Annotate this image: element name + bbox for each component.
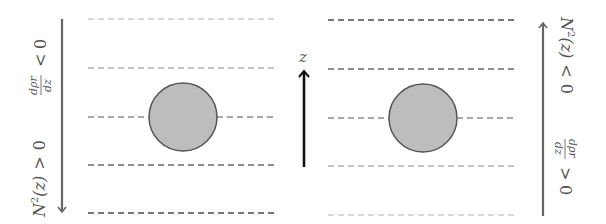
svg-text:dz: dz (41, 79, 54, 92)
right-labels: N2(z)<0 dρr dz > 0 (552, 16, 579, 195)
svg-text:dz: dz (552, 142, 565, 155)
z-axis-label: z (298, 48, 307, 66)
svg-text:dρr: dρr (566, 139, 579, 159)
svg-text:>: > (556, 167, 575, 180)
right-gradient-label: dρr dz > 0 (552, 139, 579, 195)
right-fluid-parcel (389, 84, 457, 152)
svg-text:0: 0 (31, 39, 50, 49)
left-labels: N2(z)>0 dρr dz < 0 (27, 39, 54, 218)
left-stability-label: N2(z)>0 (29, 140, 49, 218)
left-panel: N2(z)>0 dρr dz < 0 (27, 19, 275, 218)
svg-text:0: 0 (556, 185, 575, 195)
stratification-diagram: N2(z)>0 dρr dz < 0 z (0, 0, 606, 224)
left-fluid-parcel (149, 83, 217, 151)
right-stability-label: N2(z)<0 (557, 16, 577, 94)
svg-text:<: < (31, 54, 50, 67)
svg-text:dρr: dρr (27, 75, 40, 95)
left-gradient-label: dρr dz < 0 (27, 39, 54, 95)
z-axis: z (298, 48, 307, 167)
right-panel: N2(z)<0 dρr dz > 0 (328, 16, 579, 216)
